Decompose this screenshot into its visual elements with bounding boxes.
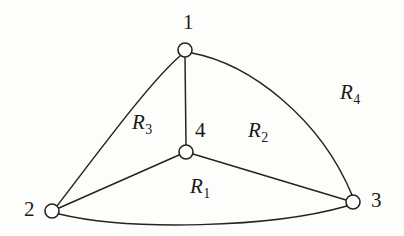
edge-3-4: [193, 154, 346, 200]
region-label-r3: R3: [132, 112, 152, 137]
region-r1-sub: 1: [203, 186, 210, 201]
region-r3-sub: 3: [145, 122, 152, 137]
vertex-3[interactable]: [346, 195, 360, 209]
vertex-2[interactable]: [45, 204, 59, 218]
vertex-label-1: 1: [183, 12, 194, 33]
figure-root: 1 2 3 4 R1 R2 R3 R4: [0, 0, 404, 236]
vertex-4[interactable]: [179, 145, 193, 159]
region-label-r2: R2: [248, 120, 268, 145]
edge-1-3: [192, 53, 352, 195]
region-label-r4: R4: [340, 82, 360, 107]
region-r3-base: R: [132, 110, 145, 134]
region-r2-sub: 2: [261, 130, 268, 145]
edge-2-3: [59, 206, 347, 225]
region-r4-sub: 4: [353, 92, 360, 107]
edge-2-4: [59, 155, 179, 208]
region-r4-base: R: [340, 80, 353, 104]
vertex-label-3: 3: [371, 190, 382, 211]
region-r2-base: R: [248, 118, 261, 142]
vertex-label-4: 4: [195, 120, 206, 141]
vertex-label-2: 2: [24, 199, 35, 220]
edge-1-4: [185, 57, 186, 145]
vertex-1[interactable]: [178, 43, 192, 57]
region-r1-base: R: [190, 174, 203, 198]
edge-1-2: [57, 56, 180, 206]
region-label-r1: R1: [190, 176, 210, 201]
